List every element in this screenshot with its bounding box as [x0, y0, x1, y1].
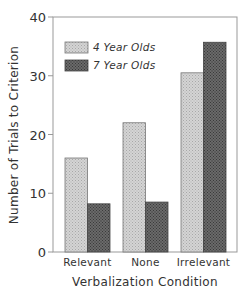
- bar-relevant-7yo: [88, 204, 111, 252]
- x-axis: RelevantNoneIrrelevant: [63, 256, 230, 268]
- legend: 4 Year Olds 7 Year Olds: [65, 41, 156, 71]
- legend-label-4yo: 4 Year Olds: [93, 41, 156, 53]
- x-axis-title: Verbalization Condition: [72, 275, 218, 289]
- bar-irrelevant-4yo: [181, 73, 204, 252]
- bar-relevant-4yo: [65, 158, 88, 252]
- y-tick-label: 40: [29, 10, 46, 25]
- legend-swatch-4yo: [65, 42, 88, 53]
- y-axis: 010203040: [29, 10, 53, 260]
- x-category-label: Relevant: [63, 256, 111, 268]
- bar-none-7yo: [146, 202, 169, 252]
- y-axis-title: Number of Trials to Criterion: [7, 46, 21, 225]
- legend-label-7yo: 7 Year Olds: [93, 59, 156, 71]
- y-tick-label: 30: [29, 69, 46, 84]
- bar-none-4yo: [123, 123, 146, 252]
- legend-swatch-7yo: [65, 60, 88, 71]
- bars: [65, 42, 226, 252]
- chart-canvas: 010203040 RelevantNoneIrrelevant Verbali…: [0, 0, 247, 299]
- y-tick-label: 10: [29, 186, 46, 201]
- y-tick-label: 20: [29, 128, 46, 143]
- bar-irrelevant-7yo: [204, 42, 227, 252]
- x-category-label: None: [131, 256, 160, 268]
- y-tick-label: 0: [38, 245, 46, 260]
- x-category-label: Irrelevant: [177, 256, 231, 268]
